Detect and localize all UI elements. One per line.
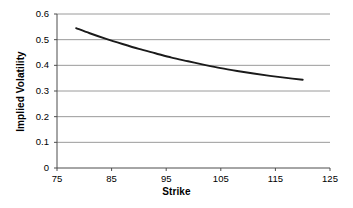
x-tick-label: 125 bbox=[315, 173, 345, 184]
y-tick-label: 0.2 bbox=[23, 111, 49, 122]
x-tick-label: 105 bbox=[206, 173, 236, 184]
volatility-skew-curve bbox=[76, 28, 303, 80]
y-axis-title: Implied Volatility bbox=[15, 22, 26, 162]
x-tick-label: 95 bbox=[151, 173, 181, 184]
y-tick-label: 0.4 bbox=[23, 59, 49, 70]
y-tick-label: 0.6 bbox=[23, 8, 49, 19]
y-tick-label: 0.5 bbox=[23, 34, 49, 45]
x-tick-label: 115 bbox=[260, 173, 290, 184]
implied-volatility-chart: 00.10.20.30.40.50.6 758595105115125 Impl… bbox=[0, 0, 353, 208]
x-axis-title: Strike bbox=[0, 186, 353, 197]
y-tick-label: 0.3 bbox=[23, 85, 49, 96]
y-tick-label: 0.1 bbox=[23, 136, 49, 147]
y-tick-label: 0 bbox=[23, 162, 49, 173]
x-tick-label: 85 bbox=[97, 173, 127, 184]
x-tick-label: 75 bbox=[42, 173, 72, 184]
